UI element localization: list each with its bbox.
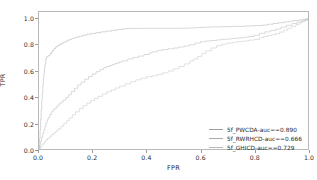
x-tick-mark: [309, 150, 310, 153]
legend-item-label: 5f_RWRHCD-auc==0.666: [227, 136, 302, 142]
x-tick-label: 0.4: [141, 154, 151, 161]
legend-item-label: 5f_GHICD-auc==0.729: [227, 145, 294, 151]
roc-curve-figure: 0.00.20.40.60.81.0 0.00.20.40.60.81.0 FP…: [0, 0, 317, 180]
legend: 5f_PWCDA-auc==0.890 5f_RWRHCD-auc==0.666…: [206, 124, 307, 153]
y-tick-label: 0.4: [24, 94, 34, 101]
legend-item-label: 5f_PWCDA-auc==0.890: [227, 127, 297, 133]
x-tick-label: 0.8: [250, 154, 260, 161]
y-tick-label: 0.2: [24, 120, 34, 127]
y-tick-label: 0.0: [24, 147, 34, 154]
legend-line-swatch: [209, 147, 223, 148]
y-axis-label: TPR: [0, 73, 7, 86]
y-tick-label: 0.8: [24, 41, 34, 48]
legend-line-swatch: [209, 129, 223, 130]
x-tick-mark: [201, 150, 202, 153]
y-tick-mark: [35, 71, 38, 72]
x-axis-label: FPR: [38, 164, 309, 172]
y-tick-mark: [35, 150, 38, 151]
y-tick-mark: [35, 97, 38, 98]
legend-line-swatch: [209, 138, 223, 139]
x-tick-mark: [92, 150, 93, 153]
x-tick-mark: [146, 150, 147, 153]
x-tick-label: 0.6: [196, 154, 206, 161]
x-tick-label: 1.0: [304, 154, 314, 161]
x-tick-mark: [38, 150, 39, 153]
y-tick-mark: [35, 124, 38, 125]
legend-item[interactable]: 5f_RWRHCD-auc==0.666: [206, 134, 307, 143]
y-tick-mark: [35, 18, 38, 19]
x-tick-label: 0.2: [87, 154, 97, 161]
y-tick-mark: [35, 44, 38, 45]
legend-item[interactable]: 5f_GHICD-auc==0.729: [206, 143, 307, 152]
legend-item[interactable]: 5f_PWCDA-auc==0.890: [206, 125, 307, 134]
y-tick-label: 0.6: [24, 67, 34, 74]
x-tick-label: 0.0: [33, 154, 43, 161]
y-tick-label: 1.0: [24, 14, 34, 21]
